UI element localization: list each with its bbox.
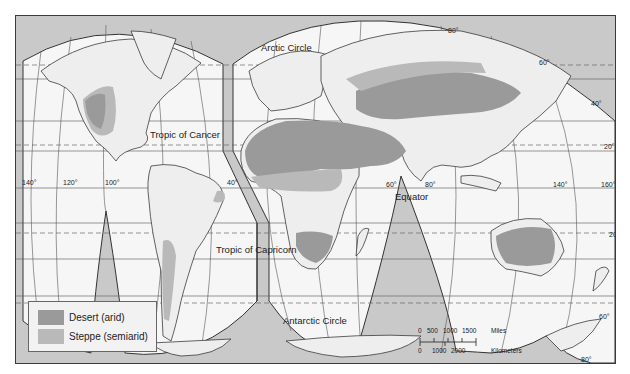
longitude-label-80e: 80° — [425, 181, 436, 188]
longitude-label-140e: 140° — [553, 181, 567, 188]
legend-item-desert: Desert (arid) — [38, 310, 125, 325]
tropic-of-cancer-label: Tropic of Cancer — [150, 130, 220, 140]
scale-miles-1000: 1000 — [443, 328, 457, 335]
scale-miles-0: 0 — [418, 328, 422, 335]
longitude-label-40w: 40° — [227, 179, 238, 186]
latitude-label-60n: 60° — [539, 59, 550, 66]
map-legend: Desert (arid) Steppe (semiarid) — [28, 301, 157, 352]
legend-label-desert: Desert (arid) — [69, 312, 125, 323]
latitude-label-80n: 80° — [448, 27, 459, 34]
australia-desert — [496, 227, 555, 266]
tropic-of-capricorn-label: Tropic of Capricorn — [216, 245, 296, 255]
latitude-label-80s: 80° — [581, 356, 592, 363]
latitude-label-20n: 20° — [604, 143, 615, 150]
legend-label-steppe: Steppe (semiarid) — [69, 331, 148, 342]
latitude-label-40n: 40° — [591, 100, 602, 107]
scale-bar-ruler — [418, 337, 488, 347]
scale-miles-500: 500 — [427, 328, 438, 335]
scale-bar: 0 500 1000 1500 Miles 0 1000 2000 Kilome… — [418, 326, 528, 358]
latitude-label-60s: 60° — [599, 313, 610, 320]
longitude-label-120w: 120° — [63, 179, 77, 186]
longitude-label-100w: 100° — [105, 179, 119, 186]
latitude-label-20s: 20° — [609, 231, 616, 238]
antarctic-circle-label: Antarctic Circle — [283, 316, 347, 326]
longitude-label-140w: 140° — [22, 179, 36, 186]
scale-km-unit: Kilometers — [491, 348, 522, 355]
arctic-circle-label: Arctic Circle — [261, 43, 312, 53]
desert-swatch — [38, 310, 64, 325]
scale-km-0: 0 — [418, 348, 422, 355]
scale-miles-1500: 1500 — [462, 328, 476, 335]
longitude-label-60e: 60° — [386, 181, 397, 188]
legend-item-steppe: Steppe (semiarid) — [38, 329, 148, 344]
scale-km-1000: 1000 — [432, 348, 446, 355]
longitude-label-160e: 160° — [601, 181, 615, 188]
steppe-swatch — [38, 329, 64, 344]
scale-km-2000: 2000 — [451, 348, 465, 355]
scale-miles-unit: Miles — [491, 328, 506, 335]
equator-label: Equator — [395, 192, 428, 202]
